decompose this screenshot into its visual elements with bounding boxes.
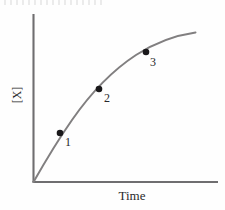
y-axis-label: [X] [10,87,25,104]
data-point-label-1: 1 [65,136,71,148]
data-point-marker-2 [96,86,103,93]
chart-figure: 1 2 3 [X] Time [0,0,225,210]
data-point-label-3: 3 [150,56,156,68]
data-point-label-2: 2 [104,92,110,104]
data-point-marker-3 [143,49,150,56]
plot-canvas [0,0,225,210]
data-curve [34,33,196,183]
data-point-marker-1 [57,130,64,137]
x-axis-label: Time [119,188,146,204]
